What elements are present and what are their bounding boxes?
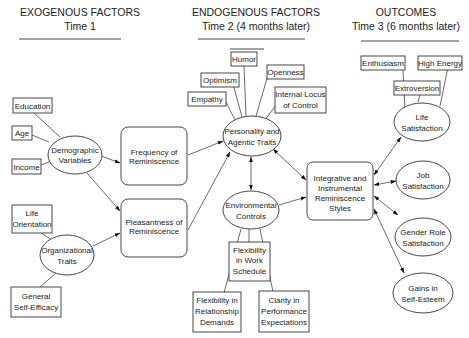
- svg-text:Gains in: Gains in: [408, 284, 437, 293]
- svg-text:Satisfaction: Satisfaction: [401, 124, 442, 133]
- node-openness: Openness: [267, 65, 304, 79]
- svg-text:Organizational: Organizational: [41, 246, 93, 255]
- svg-text:Instrumental: Instrumental: [318, 184, 362, 193]
- node-job-satisfaction: Job Satisfaction: [396, 161, 450, 199]
- svg-text:Gender Role: Gender Role: [400, 228, 446, 237]
- svg-text:Openness: Openness: [267, 68, 303, 77]
- svg-text:Flexibility in: Flexibility in: [196, 296, 237, 305]
- svg-text:Orientation: Orientation: [12, 220, 51, 229]
- node-environmental-controls: Environmental Controls: [223, 191, 279, 229]
- svg-text:Controls: Controls: [236, 212, 266, 221]
- svg-text:Expectations: Expectations: [261, 318, 307, 327]
- svg-text:Performance: Performance: [261, 307, 307, 316]
- svg-text:Self-Esteem: Self-Esteem: [401, 295, 445, 304]
- svg-text:Humor: Humor: [232, 55, 256, 64]
- svg-text:Satisfaction: Satisfaction: [402, 182, 443, 191]
- node-life-satisfaction: Life Satisfaction: [394, 103, 450, 141]
- node-humor: Humor: [231, 52, 257, 66]
- header-exogenous-time: Time 1: [64, 20, 96, 32]
- header-outcomes-time: Time 3 (6 months later): [352, 20, 460, 32]
- svg-text:Income: Income: [13, 163, 40, 172]
- node-extroversion: Extroversion: [394, 81, 440, 95]
- header-outcomes-title: OUTCOMES: [376, 6, 437, 18]
- svg-text:Traits: Traits: [57, 257, 77, 266]
- svg-text:Life: Life: [416, 113, 429, 122]
- svg-text:Frequency of: Frequency of: [131, 148, 178, 157]
- svg-text:Styles: Styles: [329, 204, 351, 213]
- node-internal-locus-of-control: Internal Locus of Control: [275, 87, 326, 113]
- svg-text:Relationship: Relationship: [195, 307, 240, 316]
- svg-text:Self-Efficacy: Self-Efficacy: [14, 303, 58, 312]
- svg-text:Integrative and: Integrative and: [314, 174, 367, 183]
- svg-text:in Work: in Work: [236, 256, 264, 265]
- node-personality-agentic-traits: Personality and Agentic Traits: [223, 116, 281, 156]
- header-outcomes: OUTCOMES Time 3 (6 months later): [352, 6, 460, 41]
- node-flexibility-work-schedule: Flexibility in Work Schedule: [229, 242, 270, 281]
- svg-text:Personality and: Personality and: [224, 127, 279, 136]
- svg-text:Demographic: Demographic: [51, 146, 99, 155]
- svg-text:Environmental: Environmental: [225, 201, 276, 210]
- svg-text:Flexibility: Flexibility: [233, 246, 266, 255]
- node-integrative-instrumental-styles: Integrative and Instrumental Reminiscenc…: [307, 162, 373, 220]
- node-clarity-performance-expectations: Clarity in Performance Expectations: [259, 291, 309, 332]
- svg-text:Job: Job: [417, 171, 430, 180]
- svg-text:Internal Locus: Internal Locus: [275, 90, 325, 99]
- node-life-orientation: Life Orientation: [12, 205, 52, 233]
- svg-text:Empathy: Empathy: [191, 95, 223, 104]
- svg-text:Variables: Variables: [59, 156, 92, 165]
- svg-text:Optimism: Optimism: [203, 76, 237, 85]
- node-optimism: Optimism: [201, 73, 239, 87]
- svg-text:Satisfaction: Satisfaction: [402, 239, 443, 248]
- node-pleasantness-of-reminiscence: Pleasantness of Reminiscence: [121, 199, 187, 257]
- svg-text:Reminiscence: Reminiscence: [315, 194, 366, 203]
- svg-text:Reminiscence: Reminiscence: [129, 157, 180, 166]
- svg-text:Agentic Traits: Agentic Traits: [228, 138, 276, 147]
- path-diagram: EXOGENOUS FACTORS Time 1 ENDOGENOUS FACT…: [0, 0, 469, 338]
- svg-text:General: General: [22, 292, 51, 301]
- node-empathy: Empathy: [188, 92, 226, 106]
- header-endogenous-title: ENDOGENOUS FACTORS: [192, 6, 320, 18]
- node-frequency-of-reminiscence: Frequency of Reminiscence: [121, 127, 187, 185]
- svg-text:Reminiscence: Reminiscence: [129, 227, 180, 236]
- node-age: Age: [12, 126, 32, 140]
- node-flexibility-relationship-demands: Flexibility in Relationship Demands: [193, 292, 241, 332]
- svg-text:High Energy: High Energy: [418, 59, 462, 68]
- header-exogenous: EXOGENOUS FACTORS Time 1: [19, 6, 140, 39]
- header-endogenous: ENDOGENOUS FACTORS Time 2 (4 months late…: [192, 6, 320, 49]
- svg-text:Clarity in: Clarity in: [268, 296, 299, 305]
- node-high-energy: High Energy: [418, 56, 462, 70]
- node-general-self-efficacy: General Self-Efficacy: [11, 287, 61, 317]
- svg-text:Enthusiasm: Enthusiasm: [362, 59, 404, 68]
- svg-text:Age: Age: [15, 129, 30, 138]
- svg-text:Extroversion: Extroversion: [395, 84, 439, 93]
- svg-text:Life: Life: [26, 209, 39, 218]
- node-enthusiasm: Enthusiasm: [361, 56, 405, 70]
- node-income: Income: [12, 159, 41, 174]
- node-organizational-traits: Organizational Traits: [40, 235, 94, 275]
- node-demographic-variables: Demographic Variables: [48, 136, 102, 174]
- node-gender-role-satisfaction: Gender Role Satisfaction: [395, 218, 451, 256]
- svg-text:Pleasantness of: Pleasantness of: [126, 218, 184, 227]
- svg-text:of Control: of Control: [283, 101, 318, 110]
- node-education: Education: [13, 98, 52, 113]
- header-endogenous-time: Time 2 (4 months later): [202, 20, 310, 32]
- node-gains-in-self-esteem: Gains in Self-Esteem: [393, 273, 453, 313]
- header-exogenous-title: EXOGENOUS FACTORS: [20, 6, 140, 18]
- svg-text:Demands: Demands: [200, 318, 234, 327]
- svg-text:Education: Education: [15, 102, 51, 111]
- svg-text:Schedule: Schedule: [233, 267, 267, 276]
